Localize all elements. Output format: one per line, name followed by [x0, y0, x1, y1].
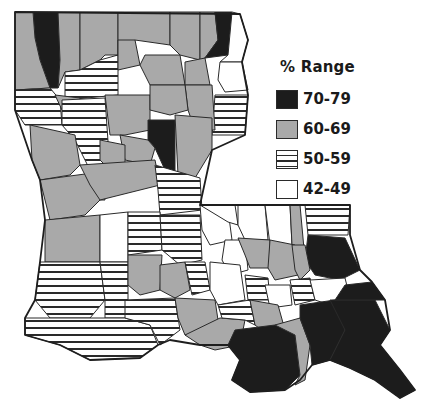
- parish-jeff-davis: [100, 262, 128, 318]
- legend-swatch-dark: [276, 90, 298, 109]
- parish-lincoln: [118, 40, 140, 70]
- parish-st-landry: [160, 215, 202, 265]
- parish-st-helena: [265, 205, 292, 245]
- legend-item-70-79: 70-79: [276, 84, 355, 114]
- legend-item-50-59: 50-59: [276, 144, 355, 174]
- legend-label: 60-69: [303, 120, 351, 138]
- legend-label: 42-49: [303, 180, 351, 198]
- legend-swatch-gray: [276, 120, 298, 139]
- parish-winn: [105, 95, 150, 135]
- parish-iberville: [210, 262, 245, 305]
- legend-item-60-69: 60-69: [276, 114, 355, 144]
- map-legend: % Range 70-79 60-69 50-59 42-49: [276, 58, 355, 204]
- parish-ouachita: [140, 55, 185, 85]
- parish-tensas: [212, 95, 248, 135]
- legend-swatch-hatched: [276, 150, 298, 169]
- parish-sabine-north: [15, 88, 62, 125]
- parish-evangeline: [128, 212, 162, 255]
- parish-beauregard: [45, 215, 100, 262]
- parish-east-feliciana: [238, 205, 268, 240]
- legend-label: 50-59: [303, 150, 351, 168]
- parish-concordia: [175, 115, 212, 178]
- parish-lafayette: [160, 262, 190, 298]
- parish-calcasieu: [35, 262, 105, 318]
- louisiana-parish-map: [0, 0, 443, 410]
- legend-swatch-white: [276, 180, 298, 199]
- parish-plaquemines: [330, 300, 415, 398]
- legend-title: % Range: [280, 58, 355, 76]
- parish-richland: [185, 58, 210, 85]
- parish-union: [170, 12, 200, 60]
- parish-acadia: [128, 255, 162, 295]
- legend-label: 70-79: [303, 90, 351, 108]
- parish-allen: [100, 212, 128, 262]
- parish-caldwell: [150, 85, 188, 115]
- parish-st-tammany-north: [305, 205, 350, 235]
- legend-item-42-49: 42-49: [276, 174, 355, 204]
- parish-cameron: [25, 318, 158, 360]
